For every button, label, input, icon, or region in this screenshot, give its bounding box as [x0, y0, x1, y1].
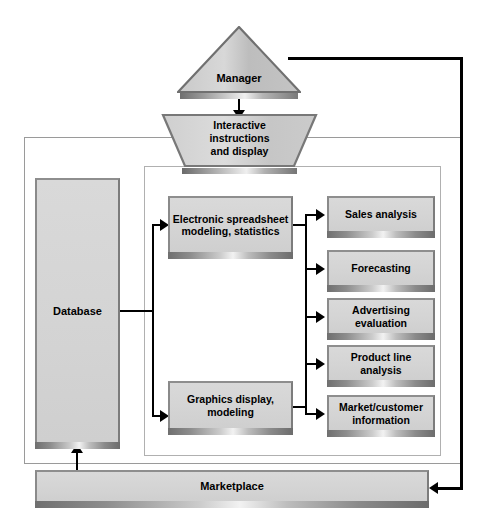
marketplace-inbound-arrowhead [429, 482, 438, 494]
output-label: Sales analysis [345, 208, 417, 220]
interactive-label-line-3: and display [161, 145, 318, 158]
output-label: Market/customer information [329, 401, 433, 426]
manager-label: Manager [177, 72, 301, 84]
manager-base-shadow [180, 93, 298, 99]
output-label: Product line analysis [329, 351, 433, 376]
output-node-product-line-analysis[interactable]: Product line analysis [327, 345, 435, 382]
product-inbound-arrowhead [316, 358, 325, 370]
manager-to-marketplace-right-segment [460, 57, 463, 489]
interactive-label-line-1: Interactive [161, 119, 318, 132]
interactive-base-shadow [182, 168, 297, 174]
forecasting-inbound-arrowhead [316, 263, 325, 275]
diagram-canvas: Manager Interactive instructions and dis… [0, 0, 480, 530]
output-label: Advertising evaluation [329, 304, 433, 329]
output-label: Forecasting [351, 262, 411, 274]
outputs-fanout-bus [305, 214, 307, 414]
graphics-display-node[interactable]: Graphics display, modeling [168, 381, 293, 430]
manager-to-marketplace-top-segment [288, 57, 463, 60]
database-label: Database [53, 305, 102, 318]
manager-to-marketplace-bottom-segment [438, 487, 463, 490]
marketplace-label: Marketplace [200, 480, 264, 493]
interactive-instructions-node[interactable]: Interactive instructions and display [161, 113, 318, 168]
database-node[interactable]: Database [35, 178, 120, 444]
database-fanout-bus [152, 224, 154, 417]
graphics-label: Graphics display, modeling [170, 393, 291, 418]
database-outbound-line [120, 310, 154, 312]
output-node-forecasting[interactable]: Forecasting [327, 250, 435, 287]
interactive-label-line-2: instructions [161, 132, 318, 145]
advertising-inbound-arrowhead [316, 311, 325, 323]
manager-node[interactable]: Manager [177, 26, 301, 93]
output-node-market-customer-information[interactable]: Market/customer information [327, 395, 435, 432]
sales-inbound-arrowhead [316, 209, 325, 221]
spreadsheet-label: Electronic spreadsheet modeling, statist… [170, 213, 291, 238]
output-node-sales-analysis[interactable]: Sales analysis [327, 196, 435, 233]
output-node-advertising-evaluation[interactable]: Advertising evaluation [327, 298, 435, 335]
marketplace-node[interactable]: Marketplace [35, 470, 429, 503]
spreadsheet-modeling-node[interactable]: Electronic spreadsheet modeling, statist… [168, 196, 293, 254]
interactive-label: Interactive instructions and display [161, 119, 318, 158]
market-inbound-arrowhead [316, 408, 325, 420]
